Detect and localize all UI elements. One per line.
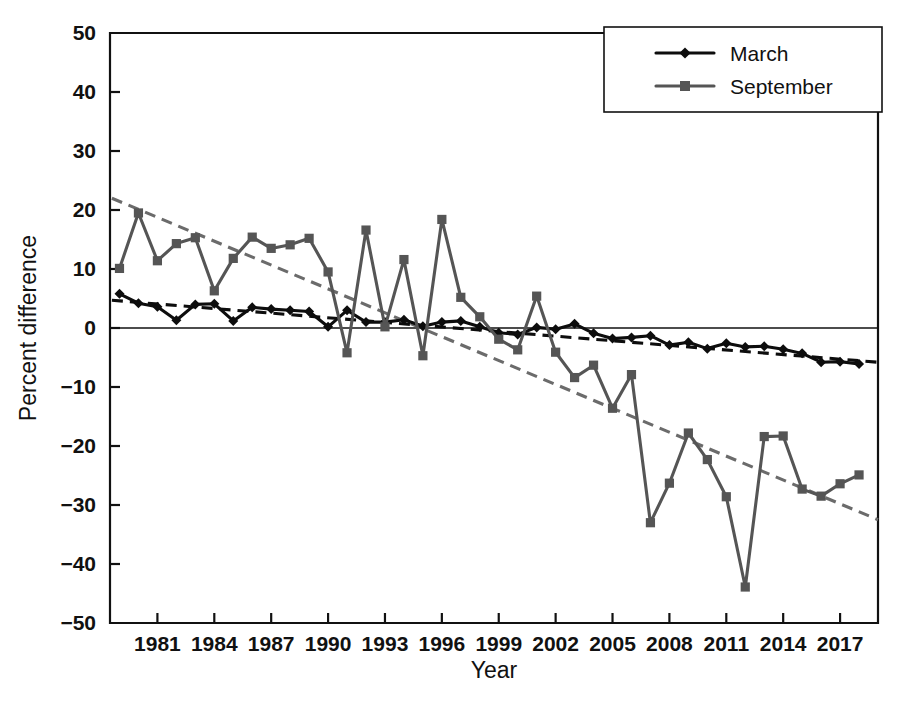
marker-september (760, 432, 769, 441)
trendlines (112, 198, 878, 520)
marker-september (134, 208, 143, 217)
marker-september (835, 479, 844, 488)
x-tick-label: 2005 (589, 632, 636, 655)
marker-september (437, 215, 446, 224)
marker-september (115, 264, 124, 273)
y-tick-label: −30 (60, 493, 96, 516)
y-tick-label: −50 (60, 611, 96, 634)
marker-march (721, 338, 731, 348)
marker-september (703, 455, 712, 464)
x-tick-label: 2002 (532, 632, 579, 655)
marker-march (551, 324, 561, 334)
marker-march (702, 344, 712, 354)
marker-march (456, 316, 466, 326)
marker-september (191, 233, 200, 242)
y-tick-label: −10 (60, 375, 96, 398)
legend-label-september: September (730, 75, 833, 98)
x-tick-label: 2011 (704, 632, 750, 655)
y-tick-label: 20 (73, 198, 96, 221)
y-axis-title: Percent difference (15, 235, 41, 421)
marker-march (759, 341, 769, 351)
x-tick-label: 1984 (191, 632, 238, 655)
x-tick-label: 2008 (646, 632, 693, 655)
marker-september (456, 293, 465, 302)
marker-september (532, 292, 541, 301)
chart-container: 1981198419871990199319961999200220052008… (0, 0, 905, 716)
marker-september (418, 351, 427, 360)
marker-september (248, 233, 257, 242)
marker-september (646, 518, 655, 527)
marker-september (494, 335, 503, 344)
x-tick-labels: 1981198419871990199319961999200220052008… (134, 632, 863, 655)
series-line-september (120, 213, 860, 587)
legend-marker-september (680, 81, 690, 91)
marker-september (741, 582, 750, 591)
y-tick-labels: −50−40−30−20−1001020304050 (60, 21, 96, 634)
x-tick-label: 2014 (760, 632, 807, 655)
marker-september (267, 244, 276, 253)
marker-september (684, 428, 693, 437)
y-tick-label: 30 (73, 139, 96, 162)
x-axis-title: Year (471, 657, 518, 683)
x-tick-label: 1981 (134, 632, 181, 655)
marker-september (475, 312, 484, 321)
marker-march (532, 322, 542, 332)
marker-march (626, 332, 636, 342)
marker-september (361, 225, 370, 234)
percent-difference-line-chart: 1981198419871990199319961999200220052008… (0, 0, 905, 716)
marker-september (342, 348, 351, 357)
y-tick-label: −20 (60, 434, 96, 457)
marker-september (513, 345, 522, 354)
x-tick-label: 1999 (475, 632, 522, 655)
marker-september (399, 255, 408, 264)
marker-september (305, 234, 314, 243)
legend: MarchSeptember (604, 27, 882, 112)
marker-september (380, 322, 389, 331)
y-tick-label: −40 (60, 552, 96, 575)
marker-september (779, 431, 788, 440)
x-tick-label: 1987 (248, 632, 295, 655)
marker-september (323, 267, 332, 276)
legend-box (604, 27, 882, 112)
marker-september (229, 254, 238, 263)
marker-september (722, 492, 731, 501)
y-tick-label: 10 (73, 257, 96, 280)
marker-september (665, 479, 674, 488)
marker-september (798, 484, 807, 493)
marker-march (114, 289, 124, 299)
marker-september (551, 348, 560, 357)
marker-september (608, 404, 617, 413)
marker-september (570, 373, 579, 382)
marker-september (854, 470, 863, 479)
marker-september (589, 361, 598, 370)
marker-september (210, 286, 219, 295)
y-tick-label: 0 (84, 316, 96, 339)
x-tick-label: 2017 (817, 632, 864, 655)
x-tick-label: 1990 (305, 632, 352, 655)
y-tick-label: 40 (73, 80, 96, 103)
marker-september (627, 370, 636, 379)
x-tick-label: 1996 (418, 632, 465, 655)
marker-september (153, 256, 162, 265)
x-tick-label: 1993 (362, 632, 409, 655)
legend-label-march: March (730, 42, 788, 65)
data-series (114, 208, 864, 591)
marker-march (133, 298, 143, 308)
marker-september (172, 239, 181, 248)
marker-march (589, 328, 599, 338)
marker-march (664, 340, 674, 350)
marker-september (286, 240, 295, 249)
marker-september (817, 492, 826, 501)
y-tick-label: 50 (73, 21, 96, 44)
trendline-september (112, 198, 878, 520)
